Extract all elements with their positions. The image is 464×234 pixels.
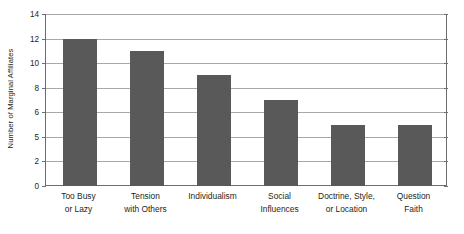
bar: [398, 125, 432, 186]
y-axis-tick-label: 6: [34, 108, 39, 117]
y-axis-tick-label: 8: [34, 83, 39, 92]
bar: [264, 100, 298, 186]
x-axis-tick-label: Individualism: [179, 190, 246, 203]
x-axis-tick-label-line2: Faith: [380, 203, 447, 216]
bar-chart: Number of Marginal Affiliates 0256810121…: [0, 0, 464, 234]
y-axis-title: Number of Marginal Affiliates: [2, 0, 20, 196]
x-axis-tick-label: Tensionwith Others: [112, 190, 179, 215]
y-axis-tick-label: 10: [30, 59, 39, 68]
y-axis-tick-label: 14: [30, 10, 39, 19]
bar: [331, 125, 365, 186]
x-axis-tick-labels: Too Busyor LazyTensionwith OthersIndivid…: [45, 190, 447, 232]
bar: [197, 75, 231, 186]
bars-group: [46, 14, 448, 186]
y-axis-title-text: Number of Marginal Affiliates: [7, 48, 16, 148]
y-axis-tick-mark: [42, 186, 46, 187]
plot-area: [45, 14, 447, 186]
x-axis-tick-label: SocialInfluences: [246, 190, 313, 215]
x-axis-tick-label-line2: or Lazy: [45, 203, 112, 216]
x-axis-tick-label-line1: Tension: [131, 191, 160, 201]
y-axis-tick-labels: 02568101214: [20, 14, 42, 186]
y-axis-tick-label: 0: [34, 182, 39, 191]
y-axis-tick-label: 2: [34, 157, 39, 166]
x-axis-tick-label-line2: Influences: [246, 203, 313, 216]
bar: [130, 51, 164, 186]
x-axis-tick-label-line1: Question: [397, 191, 431, 201]
x-axis-tick-label-line2: or Location: [313, 203, 380, 216]
plot-frame-right-border: [446, 14, 447, 187]
x-axis-tick-label: Too Busyor Lazy: [45, 190, 112, 215]
y-axis-tick-label: 5: [34, 132, 39, 141]
x-axis-tick-label: QuestionFaith: [380, 190, 447, 215]
bar: [63, 39, 97, 186]
x-axis-tick-label-line2: with Others: [112, 203, 179, 216]
x-axis-tick-label: Doctrine, Style,or Location: [313, 190, 380, 215]
x-axis-tick-label-line1: Doctrine, Style,: [318, 191, 375, 201]
x-axis-tick-label-line1: Individualism: [188, 191, 236, 201]
x-axis-tick-label-line1: Social: [268, 191, 291, 201]
x-axis-tick-label-line1: Too Busy: [61, 191, 95, 201]
y-axis-tick-label: 12: [30, 34, 39, 43]
